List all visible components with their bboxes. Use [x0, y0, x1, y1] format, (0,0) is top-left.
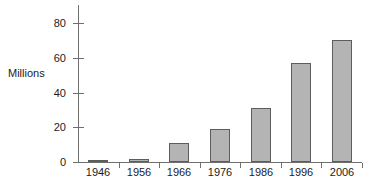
x-axis-tick-label: 1956	[127, 166, 151, 179]
bar	[332, 40, 352, 162]
y-axis-tick-label: 40	[36, 87, 66, 98]
bar	[169, 143, 189, 162]
x-axis-tick-label: 1986	[249, 166, 273, 179]
x-axis-tick-label: 1966	[167, 166, 191, 179]
x-axis-tick-label: 1976	[208, 166, 232, 179]
plot-area: 020406080	[78, 5, 362, 163]
bar-chart: Millions 020406080 194619561966197619861…	[0, 0, 370, 189]
x-axis-tick-label: 1996	[289, 166, 313, 179]
x-axis-tick	[362, 163, 363, 168]
y-axis-tick-label: 80	[36, 18, 66, 29]
x-axis-tick-label: 1946	[86, 166, 110, 179]
y-axis-tick-label: 20	[36, 122, 66, 133]
bars-layer	[78, 5, 362, 163]
y-axis-title: Millions	[8, 67, 45, 80]
bar	[251, 108, 271, 162]
bar	[129, 159, 149, 162]
x-axis-tick-labels: 1946195619661976198619962006	[78, 166, 362, 182]
bar	[210, 129, 230, 162]
bar	[88, 160, 108, 162]
y-axis-tick-label: 60	[36, 52, 66, 63]
x-axis-tick-label: 2006	[330, 166, 354, 179]
y-axis-tick-label: 0	[36, 157, 66, 168]
bar	[291, 63, 311, 162]
